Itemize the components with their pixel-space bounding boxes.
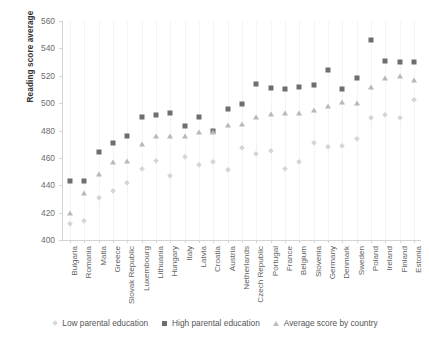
- vertical-gridline: [170, 21, 171, 240]
- data-point-marker: [254, 81, 259, 86]
- vertical-gridline: [156, 21, 157, 240]
- x-axis-tick-label: Ireland: [385, 246, 394, 271]
- data-point-marker: [240, 102, 245, 107]
- data-point-marker: [139, 142, 145, 147]
- data-point-marker: [383, 58, 388, 63]
- vertical-gridline: [299, 21, 300, 240]
- data-point-marker: [196, 162, 202, 168]
- x-axis-tick-mark: [228, 240, 229, 243]
- x-axis-tick-mark: [357, 240, 358, 243]
- data-point-marker: [82, 179, 87, 184]
- y-axis-tick-mark: [59, 158, 63, 159]
- legend-label: High parental education: [172, 318, 260, 328]
- data-point-marker: [340, 87, 345, 92]
- x-axis-tick-label: Greece: [113, 246, 122, 273]
- x-axis-tick-label: Estonia: [414, 246, 423, 273]
- y-axis-tick-mark: [59, 48, 63, 49]
- data-point-marker: [311, 107, 317, 112]
- x-axis-tick-mark: [213, 240, 214, 243]
- legend-label: Low parental education: [62, 318, 148, 328]
- x-axis-tick-label: Malta: [99, 246, 108, 266]
- x-axis-tick-label: Netherlands: [242, 246, 251, 290]
- x-axis-tick-mark: [256, 240, 257, 243]
- data-point-marker: [296, 110, 302, 115]
- data-point-marker: [81, 191, 87, 196]
- vertical-gridline: [342, 21, 343, 240]
- x-axis-tick-mark: [299, 240, 300, 243]
- x-axis-tick-label: Austria: [228, 246, 237, 271]
- vertical-gridline: [385, 21, 386, 240]
- data-point-marker: [382, 112, 388, 118]
- x-axis-tick-mark: [113, 240, 114, 243]
- data-point-marker: [368, 115, 374, 121]
- data-point-marker: [253, 114, 259, 119]
- square-marker-icon: [161, 320, 168, 327]
- data-point-marker: [253, 151, 259, 157]
- data-point-marker: [411, 60, 416, 65]
- y-axis-tick-label: 480: [15, 126, 55, 136]
- vertical-gridline: [328, 21, 329, 240]
- x-axis-tick-mark: [271, 240, 272, 243]
- y-axis-tick-mark: [59, 213, 63, 214]
- y-axis-tick-mark: [59, 103, 63, 104]
- x-axis-tick-mark: [342, 240, 343, 243]
- legend-item[interactable]: Average score by country: [273, 318, 378, 328]
- diamond-marker-icon: [51, 320, 58, 327]
- vertical-gridline: [271, 21, 272, 240]
- legend-item[interactable]: High parental education: [161, 318, 260, 328]
- data-point-marker: [82, 218, 88, 224]
- data-point-marker: [339, 99, 345, 104]
- data-point-marker: [397, 73, 403, 78]
- x-axis-tick-mark: [127, 240, 128, 243]
- vertical-gridline: [256, 21, 257, 240]
- data-point-marker: [268, 148, 274, 154]
- data-point-marker: [111, 140, 116, 145]
- data-point-marker: [282, 87, 287, 92]
- x-axis-tick-mark: [185, 240, 186, 243]
- vertical-gridline: [185, 21, 186, 240]
- data-point-marker: [168, 110, 173, 115]
- data-point-marker: [210, 129, 216, 134]
- y-axis-tick-label: 560: [15, 16, 55, 26]
- data-point-marker: [411, 97, 417, 103]
- x-axis-tick-mark: [400, 240, 401, 243]
- data-point-marker: [96, 172, 102, 177]
- y-axis-tick-label: 540: [15, 43, 55, 53]
- legend-item[interactable]: Low parental education: [51, 318, 148, 328]
- data-point-marker: [354, 136, 360, 142]
- y-axis-tick-mark: [59, 240, 63, 241]
- vertical-gridline: [414, 21, 415, 240]
- data-point-marker: [311, 83, 316, 88]
- data-point-marker: [182, 154, 188, 160]
- data-point-marker: [210, 159, 216, 165]
- y-axis-tick-label: 460: [15, 153, 55, 163]
- data-point-marker: [296, 159, 302, 165]
- data-point-marker: [354, 101, 360, 106]
- data-point-marker: [239, 121, 245, 126]
- data-point-marker: [182, 124, 187, 129]
- x-axis-tick-mark: [314, 240, 315, 243]
- data-point-marker: [397, 115, 403, 121]
- x-axis-tick-label: Slovak Republic: [127, 246, 136, 304]
- data-point-marker: [325, 103, 331, 108]
- data-point-marker: [139, 114, 144, 119]
- x-axis-tick-mark: [371, 240, 372, 243]
- data-point-marker: [325, 68, 330, 73]
- vertical-gridline: [84, 21, 85, 240]
- data-point-marker: [325, 144, 331, 150]
- data-point-marker: [125, 133, 130, 138]
- data-point-marker: [368, 84, 374, 89]
- legend-label: Average score by country: [284, 318, 378, 328]
- data-point-marker: [397, 60, 402, 65]
- vertical-gridline: [400, 21, 401, 240]
- data-point-marker: [225, 167, 231, 173]
- chart-legend: Low parental educationHigh parental educ…: [0, 318, 429, 328]
- x-axis-tick-label: Romania: [84, 246, 93, 278]
- data-point-marker: [124, 180, 130, 186]
- x-axis-tick-mark: [285, 240, 286, 243]
- data-point-marker: [411, 77, 417, 82]
- data-point-marker: [68, 179, 73, 184]
- vertical-gridline: [285, 21, 286, 240]
- x-axis-tick-label: Croatia: [213, 246, 222, 272]
- data-point-marker: [182, 133, 188, 138]
